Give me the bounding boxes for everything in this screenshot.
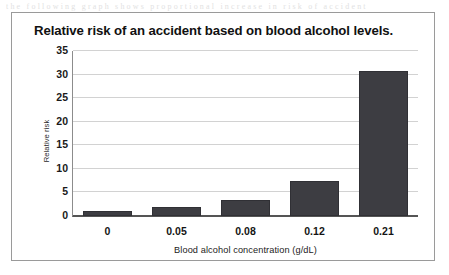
y-tick-label-10: 10 [56,162,68,174]
plot-area: 05101520253035 00.050.080.120.21 Blood a… [72,51,418,217]
y-tick-label-0: 0 [62,209,68,221]
x-axis-title: Blood alcohol concentration (g/dL) [73,245,418,255]
x-tick-slot: 0.08 [211,51,280,216]
y-tick-label-15: 15 [56,138,68,150]
x-tick-label-0.21: 0.21 [373,225,393,237]
y-tick-label-5: 5 [62,185,68,197]
x-tick-slot: 0.21 [349,51,418,216]
x-tick-label-0.12: 0.12 [304,225,324,237]
y-tick-label-25: 25 [56,91,68,103]
y-axis-title: Relative risk [42,120,51,163]
y-tick-label-30: 30 [56,68,68,80]
x-tick-label-0.05: 0.05 [166,225,186,237]
x-tick-label-0: 0 [105,225,111,237]
x-tick-slot: 0.12 [280,51,349,216]
x-tick-slot: 0 [73,51,142,216]
chart-frame: Relative risk of an accident based on bl… [11,12,435,261]
y-tick-label-35: 35 [56,44,68,56]
chart-title: Relative risk of an accident based on bl… [34,23,424,38]
y-tick-label-20: 20 [56,115,68,127]
x-tick-slot: 0.05 [142,51,211,216]
x-tick-label-0.08: 0.08 [235,225,255,237]
